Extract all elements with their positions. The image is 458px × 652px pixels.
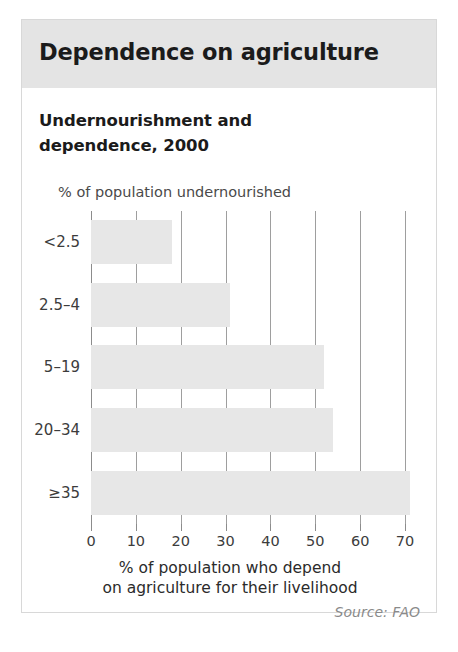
bar-row: 2.5–4	[91, 274, 423, 337]
x-tick	[226, 524, 227, 531]
card-body: Undernourishment and dependence, 2000 % …	[22, 88, 436, 614]
x-tick	[360, 524, 361, 531]
x-tick	[405, 524, 406, 531]
source-note: Source: FAO	[335, 604, 420, 620]
x-tick-label: 30	[216, 533, 234, 549]
plot-area: <2.52.5–45–1920–34≥35	[91, 211, 423, 524]
x-tick-label: 60	[351, 533, 369, 549]
category-label: ≥35	[48, 484, 80, 502]
x-tick-label: 50	[306, 533, 324, 549]
x-tick	[136, 524, 137, 531]
y-axis-label: % of population undernourished	[58, 184, 291, 200]
x-axis-label-line2: on agriculture for their livelihood	[22, 578, 438, 598]
x-tick	[91, 524, 92, 531]
x-tick-label: 10	[127, 533, 145, 549]
x-tick-label: 0	[86, 533, 95, 549]
category-label: 2.5–4	[39, 296, 80, 314]
bar	[91, 471, 410, 515]
bar	[91, 283, 230, 327]
page-title: Dependence on agriculture	[39, 39, 379, 65]
bar	[91, 408, 333, 452]
chart-card: Dependence on agriculture Undernourishme…	[21, 19, 437, 613]
chart-page: Dependence on agriculture Undernourishme…	[0, 0, 458, 652]
x-axis-label-line1: % of population who depend	[22, 558, 438, 578]
x-tick-label: 20	[171, 533, 189, 549]
x-tick	[181, 524, 182, 531]
category-label: 20–34	[34, 421, 80, 439]
x-tick-label: 40	[261, 533, 279, 549]
bar-row: <2.5	[91, 211, 423, 274]
x-axis-label: % of population who depend on agricultur…	[22, 558, 438, 598]
x-tick	[315, 524, 316, 531]
x-tick-label: 70	[396, 533, 414, 549]
category-label: 5–19	[44, 358, 80, 376]
category-label: <2.5	[44, 233, 80, 251]
bar-row: 20–34	[91, 399, 423, 462]
bar-row: 5–19	[91, 336, 423, 399]
x-axis-ticks: 010203040506070	[91, 524, 423, 554]
bar	[91, 220, 172, 264]
bar	[91, 345, 324, 389]
bar-row: ≥35	[91, 461, 423, 524]
card-header: Dependence on agriculture	[22, 20, 436, 88]
bar-chart: % of population undernourished <2.52.5–4…	[22, 88, 438, 614]
x-tick	[270, 524, 271, 531]
